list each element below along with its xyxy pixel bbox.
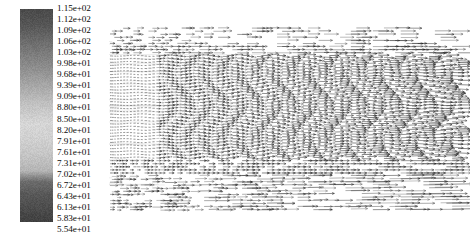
colorbar-tick-label: 9.98e+01 xyxy=(57,58,91,68)
vector-field-plot xyxy=(108,26,470,216)
colorbar-tick-label: 5.83e+01 xyxy=(57,213,91,223)
colorbar-tick-label: 8.50e+01 xyxy=(57,114,91,124)
colorbar-tick-label: 6.43e+01 xyxy=(57,191,91,201)
colorbar-tick-label: 9.39e+01 xyxy=(57,80,91,90)
colorbar-legend: 1.15e+021.12e+021.09e+021.06e+021.03e+02… xyxy=(20,9,105,231)
colorbar-tick-label: 5.54e+01 xyxy=(57,224,91,234)
colorbar-tick-label: 1.06e+02 xyxy=(57,36,91,46)
colorbar-tick-label: 1.12e+02 xyxy=(57,14,91,24)
colorbar-tick-label: 8.80e+01 xyxy=(57,102,91,112)
colorbar-gradient-swatch xyxy=(20,9,53,222)
colorbar-tick-label: 9.68e+01 xyxy=(57,69,91,79)
colorbar-tick-label: 1.15e+02 xyxy=(57,3,91,13)
colorbar-tick-label: 7.91e+01 xyxy=(57,136,91,146)
colorbar-tick-label-list: 1.15e+021.12e+021.09e+021.06e+021.03e+02… xyxy=(57,2,107,234)
colorbar-tick-label: 7.31e+01 xyxy=(57,158,91,168)
colorbar-tick-label: 7.61e+01 xyxy=(57,147,91,157)
vector-field-canvas xyxy=(108,26,470,216)
colorbar-canvas xyxy=(20,9,53,222)
figure-root: 1.15e+021.12e+021.09e+021.06e+021.03e+02… xyxy=(0,0,470,239)
colorbar-tick-label: 1.09e+02 xyxy=(57,25,91,35)
colorbar-tick-label: 9.09e+01 xyxy=(57,91,91,101)
colorbar-tick-label: 1.03e+02 xyxy=(57,47,91,57)
colorbar-tick-label: 8.20e+01 xyxy=(57,125,91,135)
colorbar-tick-label: 6.72e+01 xyxy=(57,180,91,190)
colorbar-tick-label: 6.13e+01 xyxy=(57,202,91,212)
colorbar-tick-label: 7.02e+01 xyxy=(57,169,91,179)
